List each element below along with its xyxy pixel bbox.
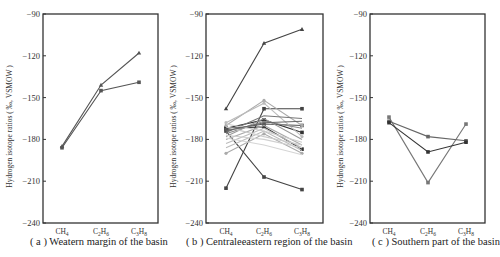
y-tick-label: −90 [190,9,203,19]
data-point-square [262,175,266,179]
series-line [226,138,302,155]
data-point-circle [300,135,303,138]
chart-panel-c: −90−120−150−180−210−240Hydrogen isotope … [336,9,485,237]
data-point-circle [262,132,265,135]
y-axis-label: Hydrogen isotope ratios ( ‰, VSMOW ) [169,65,178,188]
data-point-square [387,115,391,119]
data-point-circle [300,124,303,127]
caption-panel-b: ( b ) Centraleeastern region of the basi… [186,236,352,247]
y-axis-label: Hydrogen isotope ratios ( ‰, VSMOW ) [336,65,345,188]
caption-panel-c: ( c ) Southern part of the basin [372,236,500,247]
data-point-triangle [300,27,304,31]
y-tick-label: −120 [185,51,203,61]
y-tick-label: −180 [22,134,40,144]
data-point-square [262,107,266,111]
y-tick-label: −150 [22,93,40,103]
y-tick-label: −240 [185,218,203,228]
caption-panel-a: ( a ) Weatern margin of the basin [30,236,168,247]
data-point-square [300,188,304,192]
y-tick-label: −90 [354,9,367,19]
data-point-triangle [137,51,141,55]
y-tick-label: −180 [349,134,367,144]
data-point-square [387,121,391,125]
data-point-square [99,89,103,93]
y-tick-label: −180 [185,134,203,144]
series-line [389,117,466,182]
y-tick-label: −150 [349,93,367,103]
chart-panel-a: −90−120−150−180−210−240Hydrogen isotope … [5,9,158,237]
chart-panel-b: −90−120−150−180−210−240Hydrogen isotope … [169,9,323,237]
y-tick-label: −210 [185,176,203,186]
y-tick-label: −120 [22,51,40,61]
data-point-square [426,150,430,154]
data-point-square [464,122,468,126]
y-tick-label: −210 [349,176,367,186]
y-tick-label: −210 [22,176,40,186]
y-tick-label: −240 [22,218,40,228]
y-tick-label: −120 [349,51,367,61]
series-line [62,53,139,146]
y-tick-label: −90 [27,9,40,19]
data-point-square [426,135,430,139]
data-point-square [426,181,430,185]
data-point-square [300,131,304,135]
y-tick-label: −150 [185,93,203,103]
data-point-circle [262,99,265,102]
data-point-circle [262,102,265,105]
figure: −90−120−150−180−210−240Hydrogen isotope … [0,0,500,257]
y-axis-label: Hydrogen isotope ratios ( ‰, VSMOW ) [5,65,14,188]
data-point-circle [224,152,227,155]
plot-frame [43,14,158,223]
y-tick-label: −240 [349,218,367,228]
data-point-square [300,107,304,111]
data-point-square [224,186,228,190]
data-point-square [464,140,468,144]
data-point-square [60,146,64,150]
data-point-square [137,80,141,84]
